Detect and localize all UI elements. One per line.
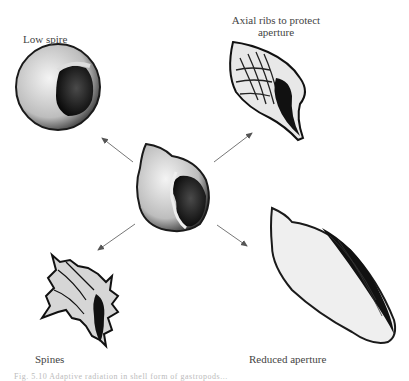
arrow-to-reduced-aperture <box>217 225 247 246</box>
spines-shell <box>42 255 118 346</box>
reduced-aperture-shell <box>271 208 395 343</box>
label-low-spire: Low spire <box>23 33 67 45</box>
arrow-to-axial-ribs <box>214 133 252 162</box>
label-reduced-aperture: Reduced aperture <box>249 353 326 365</box>
label-spines: Spines <box>35 353 64 365</box>
center-ancestral-shell <box>137 144 209 231</box>
low-spire-shell <box>16 44 100 130</box>
arrow-to-spines <box>98 224 135 250</box>
label-axial-ribs-line2: aperture <box>226 26 326 38</box>
label-axial-ribs-line1: Axial ribs to protect <box>226 14 326 26</box>
axial-ribs-shell <box>230 42 305 140</box>
arrow-to-low-spire <box>102 138 133 162</box>
diagram-canvas <box>0 0 409 381</box>
label-axial-ribs: Axial ribs to protect aperture <box>226 14 326 38</box>
figure-caption: Fig. 5.10 Adaptive radiation in shell fo… <box>14 372 228 381</box>
